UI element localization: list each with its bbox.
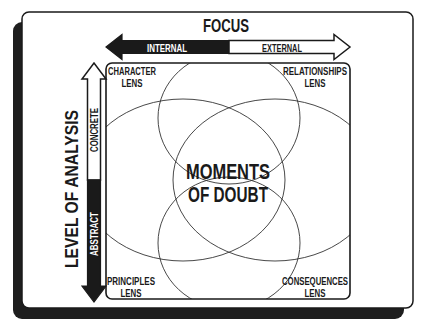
internal-label: INTERNAL	[147, 43, 187, 54]
external-label: EXTERNAL	[262, 43, 302, 54]
lens-principles-line1: PRINCIPLES	[107, 276, 155, 287]
lens-character-line2: LENS	[122, 78, 143, 89]
abstract-label: ABSTRACT	[89, 212, 100, 256]
lens-diagram: FOCUS INTERNAL EXTERNAL CONCRETE ABSTRAC…	[0, 0, 424, 325]
center-title-line2: OF DOUBT	[188, 182, 268, 207]
center-title-line1: MOMENTS	[186, 159, 270, 184]
level-of-analysis-title: LEVEL OF ANALYSIS	[62, 110, 82, 268]
concrete-label: CONCRETE	[89, 108, 100, 152]
lens-consequences-line2: LENS	[305, 288, 326, 299]
lens-character-line1: CHARACTER	[108, 66, 157, 77]
lens-relationships-line1: RELATIONSHIPS	[283, 66, 347, 77]
lens-principles-line2: LENS	[121, 288, 142, 299]
lens-consequences-line1: CONSEQUENCES	[282, 276, 348, 287]
lens-relationships-line2: LENS	[305, 78, 326, 89]
focus-title: FOCUS	[203, 16, 249, 36]
